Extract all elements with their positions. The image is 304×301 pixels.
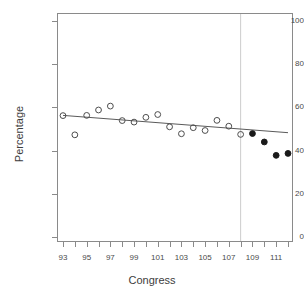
data-point[interactable] (96, 107, 102, 113)
x-axis-tick (276, 242, 277, 247)
data-point[interactable] (143, 114, 149, 120)
y-axis-tick-label: 40 (258, 146, 304, 155)
x-axis-tick-label: 111 (263, 253, 289, 262)
data-point[interactable] (202, 128, 208, 134)
x-axis-tick (63, 242, 64, 247)
x-axis-tick-label: 109 (239, 253, 265, 262)
data-point[interactable] (179, 131, 185, 137)
y-axis-tick (52, 237, 57, 238)
x-axis-tick (158, 242, 159, 247)
data-point[interactable] (72, 132, 78, 138)
x-axis-tick-label: 93 (50, 253, 76, 262)
data-point[interactable] (155, 112, 161, 118)
x-axis-tick (87, 242, 88, 247)
x-axis-tick-label: 95 (74, 253, 100, 262)
y-axis-tick-label: 0 (258, 232, 304, 241)
x-axis-tick (193, 242, 194, 247)
data-point[interactable] (107, 103, 113, 109)
y-axis-tick (52, 64, 57, 65)
data-point[interactable] (167, 124, 173, 130)
data-point[interactable] (261, 139, 267, 145)
x-axis-tick (205, 242, 206, 247)
y-axis-tick-label: 100 (258, 16, 304, 25)
x-axis-tick (99, 242, 100, 247)
x-axis-tick (75, 242, 76, 247)
data-point[interactable] (250, 131, 256, 137)
x-axis-tick (264, 242, 265, 247)
chart-canvas: Percentage Congress 02040608010093959799… (0, 0, 304, 301)
x-axis-tick (181, 242, 182, 247)
x-axis-tick-label: 103 (168, 253, 194, 262)
x-axis-tick (110, 242, 111, 247)
x-axis-tick (217, 242, 218, 247)
x-axis-tick (170, 242, 171, 247)
x-axis-tick (122, 242, 123, 247)
x-axis-tick-label: 107 (216, 253, 242, 262)
x-axis-tick (134, 242, 135, 247)
y-axis-tick (52, 194, 57, 195)
x-axis-tick (252, 242, 253, 247)
y-axis-tick-label: 80 (258, 59, 304, 68)
y-axis-tick-label: 60 (258, 102, 304, 111)
data-point[interactable] (131, 119, 137, 125)
y-axis-tick-label: 20 (258, 189, 304, 198)
x-axis-tick-label: 105 (192, 253, 218, 262)
data-point[interactable] (214, 117, 220, 123)
x-axis-tick (146, 242, 147, 247)
regression-trend-line (63, 115, 288, 132)
y-axis-tick (52, 21, 57, 22)
x-axis-tick (229, 242, 230, 247)
x-axis-tick (288, 242, 289, 247)
y-axis-tick (52, 107, 57, 108)
x-axis-tick-label: 99 (121, 253, 147, 262)
x-axis-tick (241, 242, 242, 247)
x-axis-tick-label: 101 (145, 253, 171, 262)
y-axis-tick (52, 151, 57, 152)
x-axis-tick-label: 97 (97, 253, 123, 262)
